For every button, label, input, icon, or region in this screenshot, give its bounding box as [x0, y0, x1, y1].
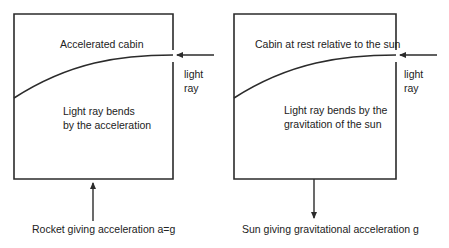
right-ray-label-line1: light — [404, 68, 423, 81]
left-force-label: Rocket giving acceleration a=g — [32, 223, 175, 236]
left-ray-label-line2: ray — [184, 82, 199, 95]
left-bend-text-line1: Light ray bends — [63, 105, 135, 118]
right-bend-text-line1: Light ray bends by the — [284, 104, 387, 117]
left-cabin-label: Accelerated cabin — [60, 38, 143, 51]
right-bend-text-line2: gravitation of the sun — [284, 118, 381, 131]
right-ray-label-line2: ray — [404, 82, 419, 95]
left-ray-label-line1: light — [184, 68, 203, 81]
right-cabin-label: Cabin at rest relative to the sun — [255, 38, 400, 51]
right-force-label: Sun giving gravitational acceleration g — [242, 223, 419, 236]
right-bent-ray-curve — [234, 55, 396, 98]
left-bent-ray-curve — [14, 55, 173, 98]
left-bend-text-line2: by the acceleration — [63, 119, 151, 132]
